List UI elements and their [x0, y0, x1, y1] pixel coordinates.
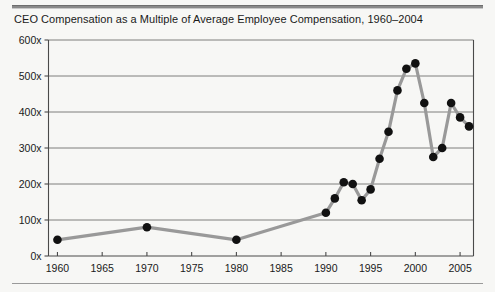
data-point [143, 223, 152, 232]
data-point [232, 236, 241, 245]
data-point [402, 65, 411, 74]
y-tick-label-200: 200x [19, 178, 43, 190]
line-chart-plot: 0x100x200x300x400x500x600x 1960196519701… [0, 0, 495, 292]
data-point [375, 155, 384, 164]
y-tick-label-500: 500x [19, 70, 43, 82]
data-point [456, 113, 465, 122]
data-point [447, 99, 456, 108]
data-point [366, 185, 375, 194]
data-point [322, 209, 331, 218]
y-tick-label-300: 300x [19, 142, 43, 154]
x-tick-label-1970: 1970 [135, 262, 159, 274]
x-tick-label-1980: 1980 [225, 262, 249, 274]
x-tick-label-1985: 1985 [269, 262, 293, 274]
data-point [429, 153, 438, 162]
x-axis-tick-labels: 1960196519701975198019851990199520002005 [46, 262, 472, 274]
data-point [53, 236, 62, 245]
data-point [339, 178, 348, 187]
x-tick-label-1990: 1990 [314, 262, 338, 274]
bottom-divider-rule [12, 283, 483, 284]
y-tick-label-600: 600x [19, 34, 43, 46]
data-point [384, 128, 393, 137]
y-tick-label-400: 400x [19, 106, 43, 118]
data-point [420, 99, 429, 108]
data-point [393, 86, 402, 95]
data-point [411, 59, 420, 68]
data-point [357, 196, 366, 205]
data-point [465, 122, 474, 131]
figure-container: CEO Compensation as a Multiple of Averag… [0, 0, 495, 292]
data-point [331, 194, 340, 203]
y-tick-label-100: 100x [19, 214, 43, 226]
data-point [348, 180, 357, 189]
data-point [438, 144, 447, 153]
y-tick-label-0: 0x [30, 250, 42, 262]
y-axis-tick-labels: 0x100x200x300x400x500x600x [19, 34, 43, 262]
x-tick-label-2000: 2000 [404, 262, 428, 274]
x-tick-label-1965: 1965 [91, 262, 115, 274]
x-tick-label-2005: 2005 [448, 262, 472, 274]
x-tick-label-1960: 1960 [46, 262, 70, 274]
gridlines-group [49, 40, 474, 256]
x-tick-label-1995: 1995 [359, 262, 383, 274]
x-tick-label-1975: 1975 [180, 262, 204, 274]
